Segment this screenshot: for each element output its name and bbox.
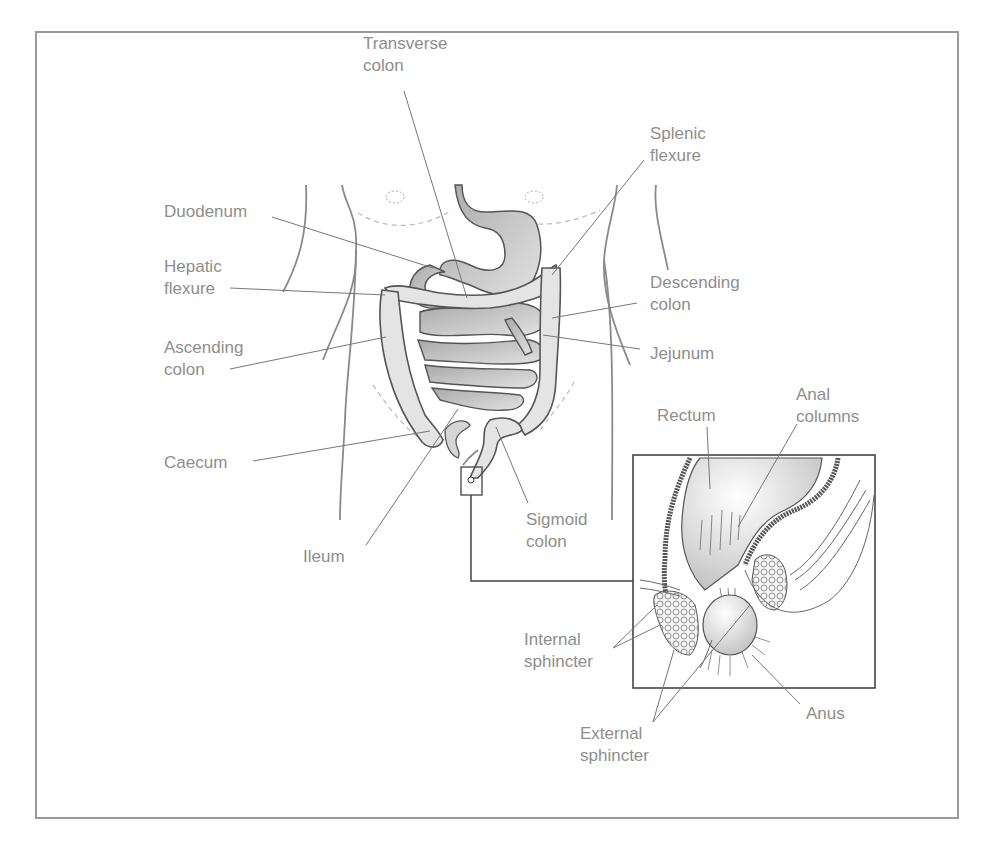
label-caecum: Caecum [164, 452, 227, 474]
label-ileum: Ileum [303, 546, 345, 568]
label-internal-sphincter: Internal sphincter [524, 629, 593, 673]
label-rectum: Rectum [657, 405, 716, 427]
label-splenic-flexure: Splenic flexure [650, 123, 706, 167]
label-ascending-colon: Ascending colon [164, 337, 243, 381]
label-hepatic-flexure: Hepatic flexure [164, 256, 222, 300]
label-duodenum: Duodenum [164, 201, 247, 223]
stomach [440, 185, 541, 296]
label-jejunum: Jejunum [650, 343, 714, 365]
label-anus: Anus [806, 703, 845, 725]
label-external-sphincter: External sphincter [580, 723, 649, 767]
small-intestine [418, 303, 545, 410]
anus [703, 595, 757, 655]
label-anal-columns: Anal columns [796, 384, 859, 428]
label-descending-colon: Descending colon [650, 272, 740, 316]
label-sigmoid-colon: Sigmoid colon [526, 509, 587, 553]
ileum [445, 421, 470, 458]
label-transverse-colon: Transverse colon [363, 33, 447, 77]
